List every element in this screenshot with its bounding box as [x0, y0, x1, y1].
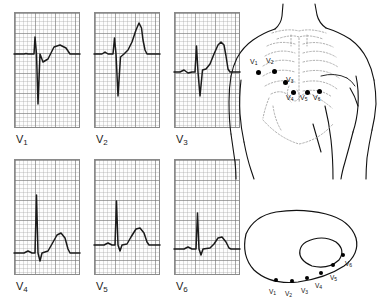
electrode-dot-v2: [272, 69, 277, 74]
ecg-lead-label-v6: V6: [176, 280, 188, 292]
electrode-letter: V: [266, 57, 271, 64]
lead-number: 3: [183, 138, 187, 147]
electrode-number: 1: [273, 290, 276, 296]
ecg-lead-label-v5: V5: [96, 280, 108, 292]
torso-diagram: V1V2V3V4V5V6: [225, 2, 381, 180]
ecg-panel-v6: V6: [174, 159, 240, 299]
ecg-waveform-v2: [94, 12, 160, 128]
cross-section-diagram: V1V2V3V4V5V6: [240, 198, 381, 302]
lead-number: 4: [23, 285, 27, 294]
ecg-panel-v5: V5: [94, 159, 160, 299]
electrode-label-v4: V4: [286, 94, 293, 101]
electrode-dot-v3: [305, 276, 309, 280]
ecg-panel-v1: V1: [14, 12, 80, 152]
electrode-letter: V: [250, 58, 255, 65]
ecg-panel-v2: V2: [94, 12, 160, 152]
lead-number: 6: [183, 285, 187, 294]
electrode-letter: V: [313, 94, 318, 101]
lead-number: 2: [103, 138, 107, 147]
electrode-label-v6: V6: [313, 94, 320, 101]
electrode-label-v3: V3: [301, 287, 308, 294]
ecg-lead-label-v3: V3: [176, 133, 188, 145]
electrode-letter: V: [286, 94, 291, 101]
electrode-label-v6: V6: [345, 260, 352, 267]
ecg-waveform-v5: [94, 159, 160, 275]
ecg-panel-v4: V4: [14, 159, 80, 299]
ecg-lead-label-v4: V4: [16, 280, 28, 292]
ecg-precordial-leads-figure: V1V2V3V4V5V6: [0, 0, 381, 302]
ecg-waveform-v1: [14, 12, 80, 128]
ecg-lead-label-v1: V1: [16, 133, 28, 145]
electrode-label-v3: V3: [286, 76, 293, 83]
lead-number: 5: [103, 285, 107, 294]
electrode-label-v2: V2: [285, 290, 292, 297]
lead-number: 1: [23, 138, 27, 147]
electrode-number: 2: [289, 292, 292, 298]
electrode-letter: V: [300, 94, 305, 101]
electrode-number: 5: [334, 276, 337, 282]
electrode-label-v5: V5: [330, 274, 337, 281]
electrode-dot-v1: [256, 70, 261, 75]
torso-outline-svg: [225, 2, 381, 180]
electrode-number: 4: [319, 284, 322, 290]
electrode-label-v2: V2: [266, 57, 273, 64]
cross-section-outline-svg: [240, 198, 381, 302]
electrode-number: 6: [349, 262, 352, 268]
electrode-dot-v5: [331, 263, 335, 267]
electrode-label-v1: V1: [269, 288, 276, 295]
electrode-letter: V: [286, 76, 291, 83]
electrode-label-v4: V4: [315, 282, 322, 289]
electrode-dot-v6: [341, 253, 345, 257]
electrode-dot-v1: [274, 278, 278, 282]
electrode-dot-v4: [319, 271, 323, 275]
electrode-label-v1: V1: [250, 58, 257, 65]
electrode-number: 3: [305, 289, 308, 295]
electrode-label-v5: V5: [300, 94, 307, 101]
ecg-waveform-v4: [14, 159, 80, 275]
electrode-dot-v2: [290, 279, 294, 283]
ecg-lead-label-v2: V2: [96, 133, 108, 145]
